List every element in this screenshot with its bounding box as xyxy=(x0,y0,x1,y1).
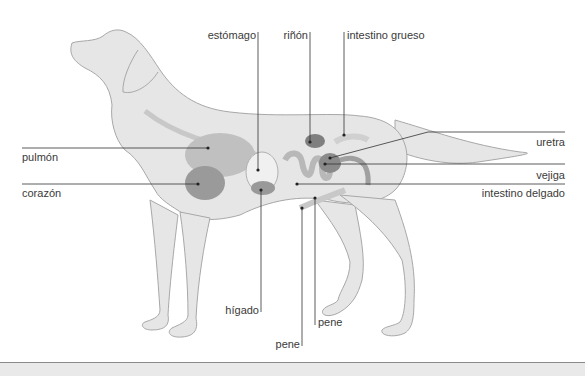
label-rinon: riñón xyxy=(280,29,308,41)
label-pene-upper: pene xyxy=(318,316,342,328)
label-pene-lower: pene xyxy=(260,338,300,350)
label-uretra: uretra xyxy=(480,136,565,148)
label-higado: hígado xyxy=(210,304,259,316)
liver-organ xyxy=(251,181,275,195)
label-intestino-grueso: intestino grueso xyxy=(347,29,425,41)
dog-body xyxy=(71,30,528,337)
label-estomago: estómago xyxy=(198,29,256,41)
bottom-divider-bar xyxy=(0,362,585,376)
label-pulmon: pulmón xyxy=(22,151,58,163)
kidney-organ xyxy=(305,134,325,148)
label-corazon: corazón xyxy=(22,187,61,199)
heart-organ xyxy=(185,166,225,200)
label-vejiga: vejiga xyxy=(480,169,565,181)
label-intestino-delgado: intestino delgado xyxy=(440,187,565,199)
